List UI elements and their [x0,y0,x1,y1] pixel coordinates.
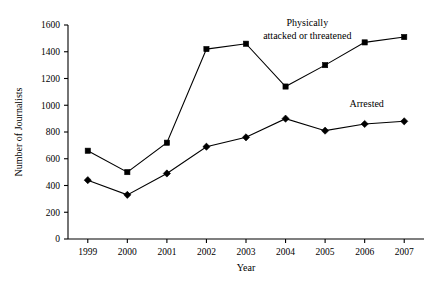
x-axis-tick-label: 2007 [395,247,414,257]
y-axis-tick-label: 800 [46,127,61,137]
y-axis-tick-label: 1400 [41,47,60,57]
y-axis-tick-label: 1200 [41,74,60,84]
data-point-marker [164,140,169,145]
data-point-marker [163,170,170,177]
data-point-marker [203,143,210,150]
y-axis-tick-label: 200 [46,208,61,218]
data-point-marker [282,115,289,122]
x-axis-tick-label: 1999 [78,247,97,257]
attacked-annotation: Physicallyattacked or threatened [263,17,351,41]
data-point-marker [204,46,209,51]
data-point-marker [323,63,328,68]
y-axis-tick-label: 1600 [41,20,60,30]
data-point-marker [401,118,408,125]
y-axis-tick-label: 600 [46,154,61,164]
data-point-marker [322,127,329,134]
x-axis-title: Year [237,262,256,273]
arrested-annotation-line: Arrested [349,98,383,109]
data-point-marker [243,41,248,46]
x-axis-tick-label: 2001 [157,247,176,257]
chart-canvas: 0200400600800100012001400160019992000200… [0,0,439,291]
data-point-marker [361,120,368,127]
y-axis-title: Number of Journalists [13,87,24,176]
attacked-annotation-line: Physically [286,17,328,28]
data-point-marker [124,191,131,198]
data-point-marker [242,134,249,141]
y-axis-tick-label: 0 [55,234,60,244]
x-axis-tick-label: 2004 [276,247,295,257]
x-axis-tick-label: 2006 [355,247,374,257]
data-point-marker [283,84,288,89]
arrested-annotation: Arrested [349,98,383,109]
data-point-marker [85,148,90,153]
line-chart: 0200400600800100012001400160019992000200… [0,0,439,291]
x-axis-tick-label: 2002 [197,247,216,257]
x-axis-tick-label: 2005 [316,247,335,257]
data-point-marker [84,177,91,184]
x-axis-tick-label: 2000 [118,247,137,257]
y-axis-tick-label: 1000 [41,101,60,111]
y-axis-tick-label: 400 [46,181,61,191]
x-axis-tick-label: 2003 [237,247,256,257]
attacked-annotation-line: attacked or threatened [263,30,351,41]
data-point-marker [402,34,407,39]
data-point-marker [362,40,367,45]
data-point-marker [125,170,130,175]
series-line-arrested [88,119,404,195]
